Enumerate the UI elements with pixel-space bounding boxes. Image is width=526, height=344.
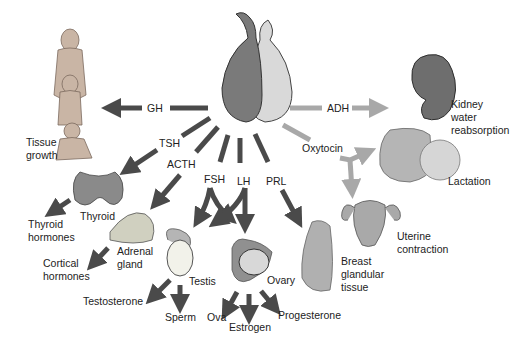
adrenal-gland-icon bbox=[110, 213, 154, 243]
label-ova: Ova bbox=[207, 311, 226, 324]
pituitary-gland-icon bbox=[222, 13, 292, 122]
hormone-label-adh: ADH bbox=[327, 102, 349, 114]
hormone-label-lh: LH bbox=[237, 175, 250, 187]
testis-icon bbox=[167, 229, 194, 276]
label-ovary: Ovary bbox=[267, 274, 295, 287]
ovary-icon bbox=[232, 239, 272, 282]
kidney-icon bbox=[412, 55, 456, 120]
hormone-label-gh: GH bbox=[147, 102, 163, 114]
label-cortical-hormones: Cortical hormones bbox=[43, 257, 90, 283]
label-progesterone: Progesterone bbox=[278, 309, 341, 322]
diagram-artwork bbox=[0, 0, 526, 344]
thyroid-icon bbox=[73, 172, 123, 205]
label-tissue-growth: Tissue growth bbox=[26, 136, 58, 162]
label-estrogen: Estrogen bbox=[229, 321, 271, 334]
mother-baby-icon bbox=[380, 128, 460, 182]
hormone-label-acth: ACTH bbox=[167, 158, 196, 170]
label-kidney-water-reabsorption: Kidney water reabsorption bbox=[451, 98, 509, 137]
label-thyroid-hormones: Thyroid hormones bbox=[28, 218, 75, 244]
uterus-icon bbox=[342, 201, 401, 247]
hormone-label-fsh: FSH bbox=[204, 173, 225, 185]
pituitary-diagram: GH TSH ACTH FSH LH PRL ADH Oxytocin Tiss… bbox=[0, 0, 526, 344]
label-testis: Testis bbox=[189, 275, 216, 288]
label-sperm: Sperm bbox=[165, 311, 196, 324]
hormone-label-prl: PRL bbox=[266, 175, 286, 187]
label-thyroid: Thyroid bbox=[80, 210, 115, 223]
label-breast-glandular-tissue: Breast glandular tissue bbox=[341, 255, 384, 294]
label-testosterone: Testosterone bbox=[83, 295, 143, 308]
human-figures-icon bbox=[54, 29, 92, 160]
label-adrenal-gland: Adrenal gland bbox=[117, 245, 153, 271]
label-lactation: Lactation bbox=[448, 175, 491, 188]
label-uterine-contraction: Uterine contraction bbox=[397, 230, 448, 256]
breast-icon bbox=[302, 221, 333, 291]
hormone-label-oxytocin: Oxytocin bbox=[302, 142, 343, 154]
hormone-label-tsh: TSH bbox=[159, 137, 180, 149]
